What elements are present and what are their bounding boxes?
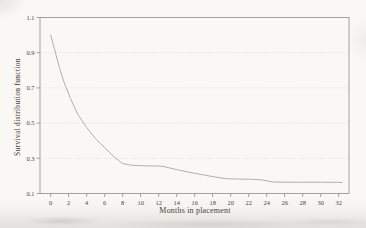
x-tick-label: 22 [246,199,252,206]
x-tick-label: 28 [300,199,306,206]
plot-frame [40,18,349,194]
y-tick-label: 0.1 [27,190,35,197]
x-tick-label: 4 [85,199,89,206]
x-tick-label: 32 [336,199,342,206]
survival-chart-figure: 0.10.30.50.70.91.10246810121416182022242… [0,0,366,228]
y-tick-label: 0.7 [27,84,36,91]
x-axis-title: Months in placement [30,206,360,215]
x-tick-label: 14 [174,199,181,206]
y-tick-label: 0.9 [27,49,35,56]
y-tick-label: 0.3 [27,155,35,162]
x-tick-label: 26 [282,199,288,206]
survival-curve-chart: 0.10.30.50.70.91.10246810121416182022242… [0,0,366,228]
y-tick-label: 1.1 [27,14,35,21]
x-tick-label: 18 [210,199,216,206]
y-tick-label: 0.5 [27,119,35,126]
x-tick-label: 8 [121,199,124,206]
x-tick-label: 6 [103,199,106,206]
x-tick-label: 24 [264,199,271,206]
y-axis-title: Survival distribution function [13,27,23,187]
x-tick-label: 20 [228,199,234,206]
survival-curve-line [51,35,343,182]
x-tick-label: 0 [49,199,52,206]
x-tick-label: 12 [156,199,162,206]
x-tick-label: 30 [318,199,324,206]
x-tick-label: 16 [192,199,198,206]
x-tick-label: 2 [67,199,70,206]
x-tick-label: 10 [138,199,144,206]
